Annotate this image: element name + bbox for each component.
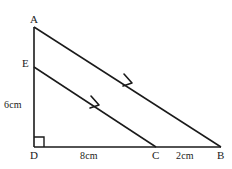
measure-label-ed: 6cm	[4, 100, 22, 110]
right-angle-marker-D	[34, 137, 44, 147]
measure-label-cb: 2cm	[176, 151, 194, 161]
parallel-arrow-icon-EC	[90, 96, 99, 108]
vertex-label-e: E	[22, 58, 29, 69]
vertex-label-b: B	[217, 150, 225, 161]
vertex-label-d: D	[30, 150, 38, 161]
vertex-label-c: C	[152, 150, 160, 161]
geometry-canvas	[0, 0, 232, 169]
measure-label-dc: 8cm	[80, 151, 98, 161]
geometry-figure: A E D C B 6cm 8cm 2cm	[0, 0, 232, 169]
vertex-label-a: A	[30, 14, 38, 25]
